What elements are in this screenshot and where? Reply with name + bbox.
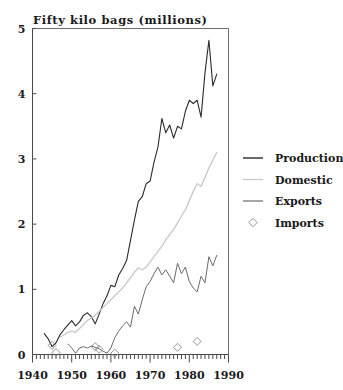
legend-item-label: Exports	[275, 195, 322, 208]
line-chart: Fifty kilo bags (millions) 012345 194019…	[0, 0, 343, 390]
y-axis-tick-label: 2	[18, 218, 26, 231]
legend-item-label: Production	[275, 152, 343, 165]
y-axis-tick-label: 1	[18, 283, 26, 296]
x-axis-tick-label: 1960	[96, 369, 127, 382]
x-axis-tick-label: 1950	[56, 369, 87, 382]
y-axis-tick-label: 5	[18, 23, 26, 36]
chart-title: Fifty kilo bags (millions)	[33, 13, 208, 27]
y-axis-tick-label: 4	[18, 88, 26, 101]
legend-item-label: Imports	[275, 217, 324, 230]
chart-figure: Fifty kilo bags (millions) 012345 194019…	[0, 0, 343, 390]
y-axis-tick-label: 0	[18, 349, 26, 362]
x-axis-tick-label: 1970	[135, 369, 166, 382]
x-axis-tick-label: 1940	[17, 369, 48, 382]
legend-item-label: Domestic	[275, 174, 333, 187]
x-axis-tick-label: 1990	[213, 369, 244, 382]
x-axis-tick-label: 1980	[174, 369, 205, 382]
y-axis-tick-label: 3	[18, 153, 26, 166]
